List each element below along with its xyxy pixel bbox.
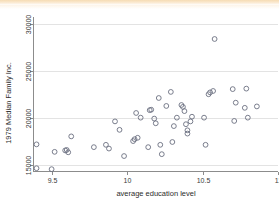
- y-axis-ticks: 15000200002500030000: [25, 15, 34, 176]
- data-point: [117, 127, 122, 132]
- y-tick-label: 20000: [25, 109, 32, 129]
- data-point: [34, 166, 39, 171]
- data-point: [171, 124, 176, 129]
- data-point: [49, 167, 54, 172]
- data-point: [245, 115, 250, 120]
- plot-canvas: 15000200002500030000 9.51010.511 1979 Me…: [0, 0, 279, 206]
- data-point: [203, 142, 208, 147]
- data-point: [34, 142, 39, 147]
- axes: [34, 17, 279, 172]
- data-point: [174, 115, 179, 120]
- x-axis-ticks: 9.51010.511: [48, 172, 279, 184]
- gridlines: [34, 25, 279, 166]
- x-axis-title: average education level: [116, 189, 196, 198]
- data-point: [242, 105, 247, 110]
- data-point: [122, 154, 127, 159]
- y-tick-label: 15000: [25, 156, 32, 176]
- y-tick-label: 30000: [25, 15, 32, 35]
- data-point: [107, 146, 112, 151]
- x-tick-label: 9.5: [48, 177, 58, 184]
- data-point: [156, 96, 161, 101]
- data-point: [244, 86, 249, 91]
- data-point: [170, 140, 175, 145]
- data-point: [233, 100, 238, 105]
- data-point: [211, 89, 216, 94]
- scatter-plot-figure: 15000200002500030000 9.51010.511 1979 Me…: [0, 0, 279, 206]
- data-points: [34, 37, 259, 172]
- data-point: [212, 37, 217, 42]
- data-point: [230, 87, 235, 92]
- data-point: [135, 135, 140, 140]
- x-tick-label: 11: [275, 177, 279, 184]
- x-tick-label: 10.5: [197, 177, 211, 184]
- data-point: [182, 109, 187, 114]
- data-point: [158, 142, 163, 147]
- data-point: [146, 145, 151, 150]
- data-point: [254, 104, 259, 109]
- y-tick-label: 25000: [25, 62, 32, 82]
- data-point: [138, 115, 143, 120]
- data-point: [164, 104, 169, 109]
- data-point: [168, 90, 173, 95]
- data-point: [159, 152, 164, 157]
- data-point: [185, 131, 190, 136]
- data-point: [113, 119, 118, 124]
- data-point: [69, 134, 74, 139]
- data-point: [91, 145, 96, 150]
- data-point: [188, 119, 193, 124]
- data-point: [232, 119, 237, 124]
- y-axis-title: 1979 Median Family Inc.: [4, 62, 13, 144]
- data-point: [153, 121, 158, 126]
- data-point: [52, 149, 57, 154]
- data-point: [202, 115, 207, 120]
- x-tick-label: 10: [124, 177, 132, 184]
- data-point: [184, 122, 189, 127]
- data-point: [134, 111, 139, 116]
